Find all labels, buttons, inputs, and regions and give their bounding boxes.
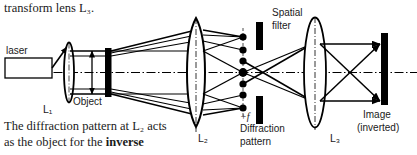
label-diffraction-line1: Diffraction [240, 124, 285, 134]
label-spatial-filter-line1: Spatial [272, 8, 303, 18]
image-plane-bar [381, 33, 388, 105]
caption-bottom-line1: The diffraction pattern at L₂ acts [4, 120, 167, 133]
label-spatial-filter-line2: filter [272, 21, 291, 31]
label-image-line1: Image [363, 110, 391, 120]
label-lens2: L₂ [198, 133, 208, 144]
caption-bottom-line2: as the object for the inverse [4, 136, 144, 149]
label-object: Object [73, 97, 102, 107]
lens3-element [304, 17, 326, 130]
label-lens1: L₁ [43, 104, 52, 115]
caption-line2-emphasis: inverse [106, 135, 144, 149]
caption-top: transform lens L₃. [4, 2, 94, 15]
diffracted-ray-bundle-upper [111, 30, 196, 56]
diffracted-ray-bundle-lower [111, 89, 196, 115]
object-plane-bar [105, 48, 112, 97]
label-lens3: L₃ [330, 133, 340, 144]
label-image-line2: (inverted) [357, 123, 399, 133]
optics-figure: transform lens L₃. The diffraction patte… [0, 0, 417, 155]
caption-line2-prefix: as the object for the [4, 135, 106, 149]
label-diffraction-line2: pattern [240, 137, 271, 147]
laser-source-box [5, 58, 52, 78]
label-focal-distance: +f [240, 112, 250, 122]
lens2-element [187, 18, 205, 132]
label-laser: laser [6, 46, 28, 56]
